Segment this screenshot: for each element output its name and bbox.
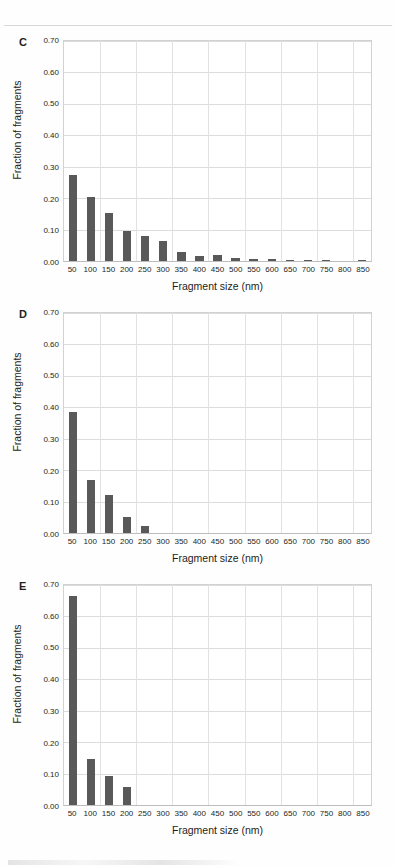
x-tick-label: 350: [174, 537, 187, 546]
y-axis-title-d: Fraction of fragments: [11, 322, 23, 482]
y-axis-title-c: Fraction of fragments: [11, 50, 23, 210]
y-tick-label: 0.70: [43, 580, 59, 589]
x-axis-title-e: Fragment size (nm): [63, 824, 372, 836]
x-tick-label: 450: [211, 265, 224, 274]
x-tick-label: 450: [211, 809, 224, 818]
x-tick-label: 350: [174, 265, 187, 274]
x-tick-label: 500: [229, 537, 242, 546]
x-tick-label: 100: [84, 809, 97, 818]
x-tick-label: 200: [120, 809, 133, 818]
y-axis-title-e: Fraction of fragments: [11, 594, 23, 754]
bar: [87, 480, 95, 533]
x-tick-label: 200: [120, 537, 133, 546]
bar: [105, 776, 113, 805]
x-tick-label: 250: [138, 537, 151, 546]
x-tick-label: 250: [138, 809, 151, 818]
panel-letter-c: C: [19, 36, 27, 48]
x-tick-label: 650: [284, 809, 297, 818]
x-tick-label: 100: [84, 265, 97, 274]
bar: [358, 260, 366, 261]
plot-area-wrapper-d: 0.000.100.200.300.400.500.600.70 5010015…: [63, 312, 372, 534]
bar: [87, 759, 95, 806]
bar: [213, 255, 221, 261]
bar: [159, 241, 167, 261]
x-tick-label: 100: [84, 537, 97, 546]
bar: [123, 231, 131, 261]
chart-panel-c: C Fraction of fragments 0.000.100.200.30…: [0, 28, 395, 300]
x-tick-label: 400: [193, 809, 206, 818]
bar: [249, 259, 257, 262]
bar: [304, 260, 312, 261]
bar: [87, 197, 95, 261]
x-tick-label: 450: [211, 537, 224, 546]
plot-area-wrapper-c: 0.000.100.200.300.400.500.600.70 5010015…: [63, 40, 372, 262]
y-tick-label: 0.20: [43, 194, 59, 203]
x-tick-label: 50: [68, 809, 77, 818]
x-tick-label: 700: [302, 265, 315, 274]
x-tick-label: 850: [356, 537, 369, 546]
x-tick-label: 600: [265, 537, 278, 546]
x-axis-ticks-c: 5010015020025030035040045050055060065070…: [63, 262, 372, 276]
x-tick-label: 700: [302, 809, 315, 818]
scan-artifact-smudge: [8, 860, 238, 865]
bar-series-e: [64, 585, 371, 805]
x-tick-label: 650: [284, 537, 297, 546]
bar: [123, 517, 131, 533]
x-tick-label: 300: [156, 265, 169, 274]
y-tick-label: 0.20: [43, 738, 59, 747]
y-tick-label: 0.00: [43, 530, 59, 539]
panel-letter-e: E: [19, 580, 27, 592]
x-tick-label: 300: [156, 537, 169, 546]
bar: [177, 252, 185, 261]
bar: [231, 258, 239, 261]
x-tick-label: 750: [320, 265, 333, 274]
y-tick-label: 0.00: [43, 802, 59, 811]
plot-area-c: [63, 40, 372, 262]
bar-series-c: [64, 41, 371, 261]
y-tick-label: 0.70: [43, 308, 59, 317]
y-tick-label: 0.50: [43, 643, 59, 652]
y-tick-label: 0.10: [43, 226, 59, 235]
y-tick-label: 0.70: [43, 36, 59, 45]
scan-artifact-rule: [4, 25, 392, 26]
bar: [195, 256, 203, 261]
y-tick-label: 0.60: [43, 67, 59, 76]
y-tick-label: 0.20: [43, 466, 59, 475]
x-tick-label: 50: [68, 537, 77, 546]
x-tick-label: 800: [338, 537, 351, 546]
y-tick-label: 0.40: [43, 131, 59, 140]
y-tick-label: 0.30: [43, 434, 59, 443]
x-tick-label: 350: [174, 809, 187, 818]
panel-letter-d: D: [19, 308, 27, 320]
y-tick-label: 0.00: [43, 258, 59, 267]
y-tick-label: 0.60: [43, 611, 59, 620]
bar: [286, 260, 294, 261]
x-tick-label: 750: [320, 809, 333, 818]
y-tick-label: 0.10: [43, 770, 59, 779]
y-tick-label: 0.50: [43, 371, 59, 380]
chart-panel-d: D Fraction of fragments 0.000.100.200.30…: [0, 300, 395, 572]
x-tick-label: 50: [68, 265, 77, 274]
y-tick-label: 0.40: [43, 675, 59, 684]
x-tick-label: 400: [193, 265, 206, 274]
x-tick-label: 850: [356, 265, 369, 274]
y-tick-label: 0.50: [43, 99, 59, 108]
y-tick-label: 0.10: [43, 498, 59, 507]
plot-area-e: [63, 584, 372, 806]
figure-page: C Fraction of fragments 0.000.100.200.30…: [0, 0, 395, 867]
bar: [141, 526, 149, 533]
plot-area-d: [63, 312, 372, 534]
x-tick-label: 300: [156, 809, 169, 818]
x-tick-label: 500: [229, 809, 242, 818]
chart-panel-e: E Fraction of fragments 0.000.100.200.30…: [0, 572, 395, 862]
y-tick-label: 0.30: [43, 162, 59, 171]
x-tick-label: 150: [102, 809, 115, 818]
x-tick-label: 550: [247, 809, 260, 818]
x-tick-label: 800: [338, 265, 351, 274]
bar: [141, 236, 149, 261]
bar: [322, 260, 330, 261]
x-tick-label: 700: [302, 537, 315, 546]
y-tick-label: 0.40: [43, 403, 59, 412]
bar: [69, 596, 77, 805]
y-tick-label: 0.30: [43, 706, 59, 715]
